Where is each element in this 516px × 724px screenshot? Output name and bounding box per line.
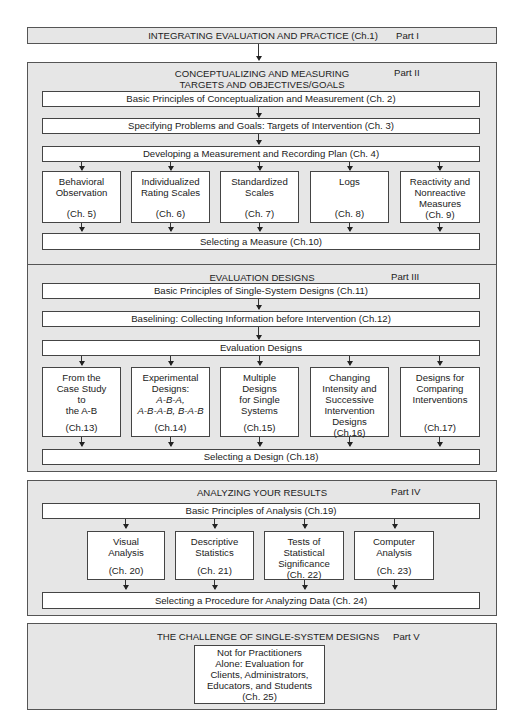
arrow-down-icon bbox=[257, 442, 263, 447]
text-line: Alone: Evaluation for bbox=[215, 658, 304, 669]
text-line: Significance bbox=[278, 558, 330, 569]
text-line: Educators, and Students bbox=[207, 680, 312, 691]
text-line: Computer bbox=[373, 536, 415, 547]
text-line: Logs bbox=[339, 176, 360, 187]
ch5-box: BehavioralObservation (Ch. 5) bbox=[42, 171, 121, 223]
chapter-label: (Ch. 9) bbox=[425, 209, 454, 220]
evaluation-designs-label: Evaluation Designs bbox=[220, 342, 302, 353]
ch4-box: Developing a Measurement and Recording P… bbox=[42, 146, 480, 162]
ch19-label: Basic Principles of Analysis (Ch.19) bbox=[186, 505, 337, 516]
text-line: Comparing bbox=[413, 383, 468, 394]
part-2-title-line1: CONCEPTUALIZING AND MEASURING bbox=[27, 68, 497, 79]
arrow-down-icon bbox=[79, 227, 85, 232]
ch14-box: ExperimentalDesigns:A-B-A,A-B-A-B, B-A-B… bbox=[131, 367, 210, 437]
text-line: Tests of bbox=[278, 536, 330, 547]
ch25-box: Not for Practitioners Alone: Evaluation … bbox=[194, 645, 325, 704]
part-5-label: Part V bbox=[393, 631, 420, 642]
arrow-down-icon bbox=[123, 585, 129, 590]
arrow-down-icon bbox=[256, 140, 262, 145]
part-5-title: THE CHALLENGE OF SINGLE-SYSTEM DESIGNS bbox=[157, 631, 379, 642]
ch11-box: Basic Principles of Single-System Design… bbox=[42, 283, 480, 299]
chapter-label: (Ch. 5) bbox=[67, 208, 96, 219]
text-line: Not for Practitioners bbox=[217, 647, 302, 658]
text-line: From the bbox=[57, 372, 107, 383]
chapter-label: (Ch. 8) bbox=[335, 208, 364, 219]
chapter-label: (Ch. 6) bbox=[156, 208, 185, 219]
ch21-box: DescriptiveStatistics (Ch. 21) bbox=[175, 531, 254, 580]
text-line: Intervention bbox=[322, 405, 376, 416]
text-line: Designs bbox=[322, 416, 376, 427]
arrow-down-icon bbox=[168, 227, 174, 232]
ch17-box: Designs forComparingInterventions (Ch.17… bbox=[400, 367, 480, 437]
text-line: Behavioral bbox=[56, 176, 108, 187]
text-line: Analysis bbox=[108, 547, 144, 558]
text-line: Scales bbox=[231, 187, 288, 198]
ch16-box: ChangingIntensity andSuccessiveIntervent… bbox=[310, 367, 389, 437]
chapter-label: (Ch.17) bbox=[424, 422, 456, 433]
arrow-down-icon bbox=[392, 585, 398, 590]
chapter-label: (Ch. 25) bbox=[242, 691, 277, 702]
part-3-title: EVALUATION DESIGNS bbox=[27, 272, 497, 283]
ch11-label: Basic Principles of Single-System Design… bbox=[154, 285, 368, 296]
arrow-down-icon bbox=[123, 524, 129, 529]
arrow-down-icon bbox=[437, 227, 443, 232]
chapter-label: (Ch.14) bbox=[155, 422, 187, 433]
text-line: Rating Scales bbox=[141, 187, 200, 198]
part-3-label: Part III bbox=[391, 271, 419, 282]
arrow-down-icon bbox=[302, 524, 308, 529]
ch7-box: StandardizedScales (Ch. 7) bbox=[220, 171, 299, 223]
arrow-down-icon bbox=[347, 361, 353, 366]
text-line: Intensity and bbox=[322, 383, 376, 394]
ch2-box: Basic Principles of Conceptualization an… bbox=[42, 91, 480, 107]
text-line: Individualized bbox=[141, 176, 200, 187]
chapter-label: (Ch. 20) bbox=[109, 565, 144, 576]
text-line: Interventions bbox=[413, 394, 468, 405]
text-line: Statistics bbox=[191, 547, 238, 558]
part-2-label: Part II bbox=[394, 67, 420, 78]
arrow-down-icon bbox=[437, 442, 443, 447]
arrow-down-icon bbox=[437, 361, 443, 366]
ch3-box: Specifying Problems and Goals: Targets o… bbox=[42, 118, 480, 134]
part-1-box: INTEGRATING EVALUATION AND PRACTICE (Ch.… bbox=[27, 27, 497, 44]
ch10-box: Selecting a Measure (Ch.10) bbox=[42, 233, 480, 250]
text-line: Case Study bbox=[57, 383, 107, 394]
text-line: Standardized bbox=[231, 176, 288, 187]
ch12-label: Baselining: Collecting Information befor… bbox=[131, 313, 391, 324]
ch20-box: VisualAnalysis (Ch. 20) bbox=[87, 531, 165, 580]
ch8-box: Logs (Ch. 8) bbox=[310, 171, 389, 223]
arrow-down-icon bbox=[347, 442, 353, 447]
arrow-down-icon bbox=[212, 524, 218, 529]
ch24-box: Selecting a Procedure for Analyzing Data… bbox=[42, 592, 480, 609]
text-line: Designs: bbox=[137, 383, 203, 394]
text-line: Changing bbox=[322, 372, 376, 383]
text-line: Statistical bbox=[278, 547, 330, 558]
ch19-box: Basic Principles of Analysis (Ch.19) bbox=[42, 503, 480, 519]
arrow-down-icon bbox=[347, 227, 353, 232]
part-4-title: ANALYZING YOUR RESULTS bbox=[27, 487, 497, 498]
ch22-box: Tests ofStatisticalSignificance (Ch. 22) bbox=[264, 531, 344, 580]
arrow-down-icon bbox=[168, 361, 174, 366]
arrow-down-icon bbox=[256, 305, 262, 310]
text-line: Clients, Administrators, bbox=[210, 669, 308, 680]
text-line: A-B-A-B, B-A-B bbox=[137, 405, 203, 416]
ch4-label: Developing a Measurement and Recording P… bbox=[143, 148, 379, 159]
text-line: Reactivity and bbox=[410, 176, 470, 187]
ch3-label: Specifying Problems and Goals: Targets o… bbox=[128, 120, 394, 131]
text-line: for Single bbox=[239, 394, 280, 405]
evaluation-designs-box: Evaluation Designs bbox=[42, 340, 480, 356]
ch9-box: Reactivity andNonreactiveMeasures (Ch. 9… bbox=[400, 171, 480, 223]
arrow-down-icon bbox=[212, 585, 218, 590]
text-line: Descriptive bbox=[191, 536, 238, 547]
ch10-label: Selecting a Measure (Ch.10) bbox=[200, 236, 322, 247]
chapter-label: (Ch.13) bbox=[66, 422, 98, 433]
chapter-label: (Ch. 22) bbox=[287, 569, 322, 580]
chapter-label: (Ch. 7) bbox=[245, 208, 274, 219]
part-2-title-line2: TARGETS AND OBJECTIVES/GOALS bbox=[27, 79, 497, 90]
text-line: Measures bbox=[410, 198, 470, 209]
text-line: Visual bbox=[108, 536, 144, 547]
chapter-label: (Ch. 23) bbox=[377, 565, 412, 576]
text-line: Experimental bbox=[137, 372, 203, 383]
arrow-down-icon bbox=[257, 227, 263, 232]
text-line: Nonreactive bbox=[410, 187, 470, 198]
arrow-down-icon bbox=[257, 361, 263, 366]
